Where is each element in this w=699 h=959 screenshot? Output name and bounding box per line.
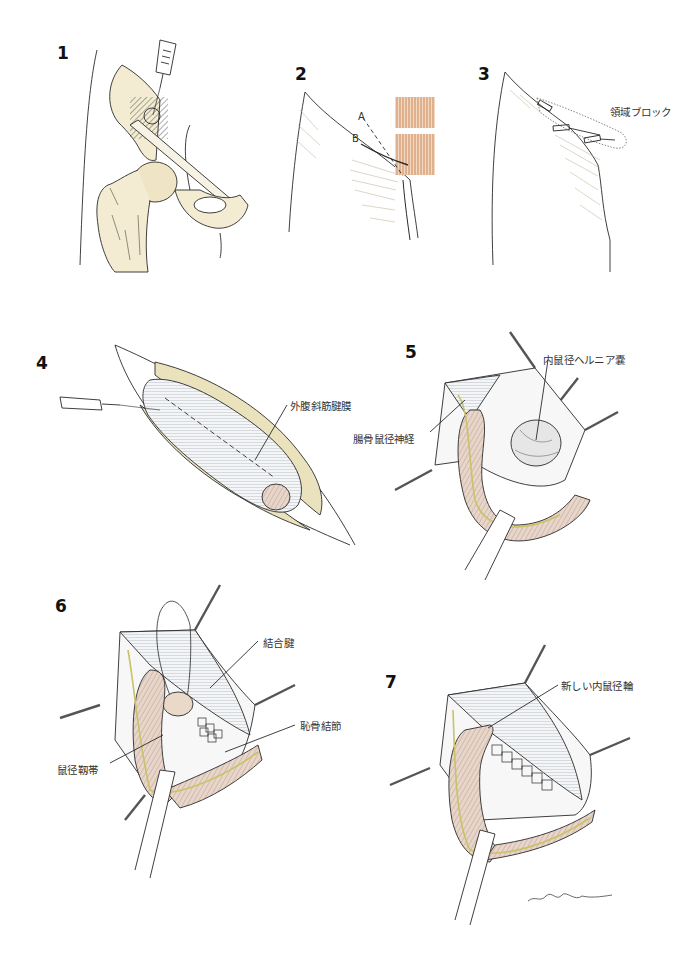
label-field-block: 領域ブロック (610, 104, 672, 119)
panel-4-aponeurosis-illustration (60, 345, 355, 545)
panel-number-6: 6 (55, 596, 67, 616)
panel-number-4: 4 (36, 353, 48, 373)
panel-number-2: 2 (295, 64, 307, 84)
label-ilioinguinal-nerve: 腸骨鼠径神経 (353, 431, 415, 446)
label-new-internal-ring: 新しい内鼠径輪 (561, 678, 633, 693)
label-external-oblique-aponeurosis: 外腹斜筋腱膜 (290, 398, 352, 413)
artist-signature (528, 894, 612, 901)
panel-number-5: 5 (405, 342, 417, 362)
panel-6-repair-illustration (60, 585, 295, 878)
label-pubic-tubercle: 恥骨結節 (300, 718, 341, 733)
label-direct-hernia-sac: 内鼠径ヘルニア嚢 (543, 352, 625, 367)
panel-number-3: 3 (478, 64, 490, 84)
panel-5-hernia-sac-illustration (395, 332, 618, 580)
label-approach-a: A (358, 111, 365, 122)
panel-number-7: 7 (385, 672, 397, 692)
label-approach-b: B (352, 133, 359, 144)
label-conjoined-tendon: 結合腱 (263, 635, 294, 650)
panel-1-hip-illustration (80, 40, 248, 272)
label-inguinal-ligament: 鼠径靱帯 (57, 762, 98, 777)
illustration-canvas (0, 0, 699, 959)
panel-3-field-block-illustration (492, 72, 626, 272)
syringe-icon (538, 100, 616, 143)
panel-number-1: 1 (57, 43, 69, 63)
